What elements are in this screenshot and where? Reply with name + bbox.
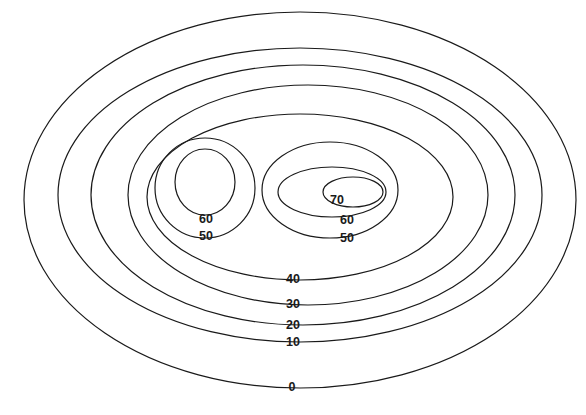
contour-line-10 — [58, 48, 542, 342]
contour-line-30 — [128, 85, 488, 305]
contour-label-60: 60 — [340, 213, 354, 227]
contour-line-60 — [278, 167, 386, 217]
contour-label-0: 0 — [289, 380, 296, 394]
contour-label-50: 50 — [199, 229, 213, 243]
contour-lines — [24, 12, 576, 388]
contour-line-20 — [91, 65, 515, 325]
contour-line-50 — [262, 142, 398, 238]
contour-plot: 0102030405060506070 — [0, 0, 586, 415]
contour-line-0 — [24, 12, 576, 388]
contour-line-60 — [175, 149, 235, 215]
contour-label-10: 10 — [286, 335, 300, 349]
contour-label-50: 50 — [340, 231, 354, 245]
contour-labels: 0102030405060506070 — [199, 193, 354, 394]
contour-label-70: 70 — [330, 193, 344, 207]
contour-label-60: 60 — [199, 212, 213, 226]
contour-label-30: 30 — [286, 297, 300, 311]
contour-label-40: 40 — [286, 272, 300, 286]
contour-label-20: 20 — [286, 318, 300, 332]
